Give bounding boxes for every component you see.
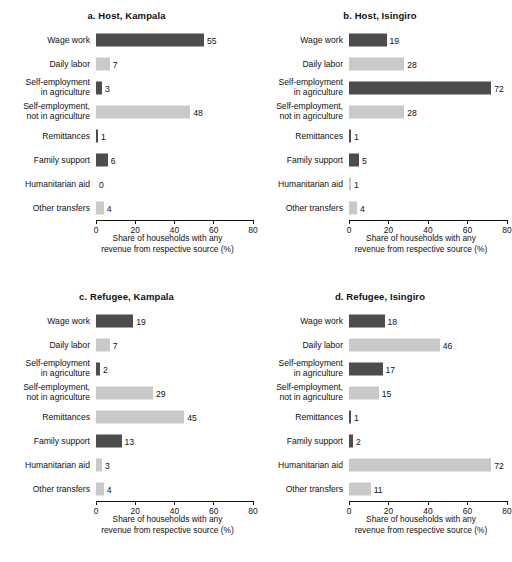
category-label-line: in agriculture bbox=[253, 88, 343, 98]
bar-area: 2 bbox=[96, 357, 253, 381]
axis-tick bbox=[349, 220, 350, 224]
bar-area: 46 bbox=[349, 333, 507, 357]
axis-tick-label: 40 bbox=[423, 506, 432, 516]
category-label: Family support bbox=[253, 436, 349, 446]
category-label-line: in agriculture bbox=[0, 369, 90, 379]
x-axis: 020406080 bbox=[96, 501, 253, 519]
bar-area: 0 bbox=[96, 172, 253, 196]
bar-area: 19 bbox=[349, 28, 507, 52]
axis-tick-label: 40 bbox=[423, 225, 432, 235]
bar-track: 5 bbox=[349, 154, 507, 167]
axis-tick-label: 80 bbox=[502, 506, 511, 516]
bar-area: 5 bbox=[349, 148, 507, 172]
bar-area: 48 bbox=[96, 100, 253, 124]
axis-tick bbox=[96, 501, 97, 505]
bar-value-label: 72 bbox=[494, 83, 504, 93]
category-label: Humanitarian aid bbox=[0, 460, 96, 470]
bar-row: Self-employmentin agriculture2 bbox=[0, 357, 253, 381]
bar-row: Humanitarian aid3 bbox=[0, 453, 253, 477]
bar bbox=[96, 483, 104, 496]
category-label: Family support bbox=[253, 155, 349, 165]
bar-value-label: 11 bbox=[374, 484, 383, 494]
bar-area: 7 bbox=[96, 333, 253, 357]
bar-track: 7 bbox=[96, 339, 253, 352]
category-label: Other transfers bbox=[0, 203, 96, 213]
bar-value-label: 55 bbox=[207, 35, 217, 45]
category-label: Other transfers bbox=[253, 484, 349, 494]
axis-tick-label: 0 bbox=[347, 506, 352, 516]
axis-tick bbox=[467, 501, 468, 505]
chart-panel-d: d. Refugee, IsingiroWage work18Daily lab… bbox=[253, 281, 507, 562]
bar-row: Family support2 bbox=[253, 429, 507, 453]
bar-area: 3 bbox=[96, 453, 253, 477]
category-label: Self-employmentin agriculture bbox=[0, 78, 96, 97]
axis-tick bbox=[428, 220, 429, 224]
category-label: Self-employment,not in agriculture bbox=[253, 383, 349, 402]
bar-value-label: 28 bbox=[407, 59, 417, 69]
bar-value-label: 18 bbox=[388, 316, 398, 326]
bar-row: Other transfers4 bbox=[253, 196, 507, 220]
bar bbox=[349, 34, 387, 47]
bar-track: 1 bbox=[349, 130, 507, 143]
bar-row: Other transfers4 bbox=[0, 196, 253, 220]
category-label-line: in agriculture bbox=[253, 369, 343, 379]
axis-tick-label: 60 bbox=[463, 225, 472, 235]
bar-track: 1 bbox=[349, 411, 507, 424]
axis-tick-label: 0 bbox=[347, 225, 352, 235]
axis-tick-label: 20 bbox=[384, 225, 393, 235]
axis-tick-label: 80 bbox=[502, 225, 511, 235]
bar-row: Daily labor7 bbox=[0, 333, 253, 357]
bar-track: 2 bbox=[96, 363, 253, 376]
category-label: Humanitarian aid bbox=[0, 179, 96, 189]
bar-value-label: 29 bbox=[156, 388, 166, 398]
category-label: Self-employmentin agriculture bbox=[253, 78, 349, 97]
bar-value-label: 48 bbox=[193, 107, 203, 117]
axis-tick-label: 0 bbox=[94, 225, 99, 235]
bar-area: 1 bbox=[96, 124, 253, 148]
axis-tick bbox=[349, 501, 350, 505]
bar-area: 2 bbox=[349, 429, 507, 453]
axis-tick bbox=[96, 220, 97, 224]
bar-value-label: 1 bbox=[354, 131, 359, 141]
bar-row: Self-employment,not in agriculture29 bbox=[0, 381, 253, 405]
bar-area: 28 bbox=[349, 52, 507, 76]
bar bbox=[349, 315, 385, 328]
bar bbox=[96, 202, 104, 215]
bar-track: 15 bbox=[349, 387, 507, 400]
bar-row: Self-employmentin agriculture17 bbox=[253, 357, 507, 381]
bar-row: Humanitarian aid72 bbox=[253, 453, 507, 477]
axis-tick bbox=[213, 501, 214, 505]
bar bbox=[96, 339, 110, 352]
bar-area: 1 bbox=[349, 405, 507, 429]
bar bbox=[96, 106, 190, 119]
bar bbox=[349, 178, 351, 191]
category-label: Daily labor bbox=[253, 340, 349, 350]
axis-tick bbox=[213, 220, 214, 224]
bar-track: 28 bbox=[349, 58, 507, 71]
bar-rows: Wage work55Daily labor7Self-employmentin… bbox=[0, 28, 253, 220]
bar bbox=[96, 363, 100, 376]
category-label: Daily labor bbox=[0, 340, 96, 350]
bar-track: 0 bbox=[96, 178, 253, 191]
category-label: Self-employment,not in agriculture bbox=[0, 102, 96, 121]
category-label: Humanitarian aid bbox=[253, 179, 349, 189]
bar bbox=[96, 82, 102, 95]
bar-track: 4 bbox=[96, 483, 253, 496]
category-label: Humanitarian aid bbox=[253, 460, 349, 470]
bar-value-label: 3 bbox=[105, 460, 110, 470]
axis-tick bbox=[388, 220, 389, 224]
bar-track: 29 bbox=[96, 387, 253, 400]
axis-tick bbox=[135, 220, 136, 224]
axis-tick-label: 0 bbox=[94, 506, 99, 516]
category-label: Wage work bbox=[253, 35, 349, 45]
x-axis: 020406080 bbox=[96, 220, 253, 238]
bar-row: Remittances1 bbox=[253, 405, 507, 429]
bar-value-label: 15 bbox=[382, 388, 392, 398]
bar-track: 72 bbox=[349, 82, 507, 95]
bar-area: 6 bbox=[96, 148, 253, 172]
bar-track: 3 bbox=[96, 459, 253, 472]
bar-area: 13 bbox=[96, 429, 253, 453]
bar-area: 3 bbox=[96, 76, 253, 100]
bar-value-label: 72 bbox=[494, 460, 504, 470]
bar-area: 15 bbox=[349, 381, 507, 405]
